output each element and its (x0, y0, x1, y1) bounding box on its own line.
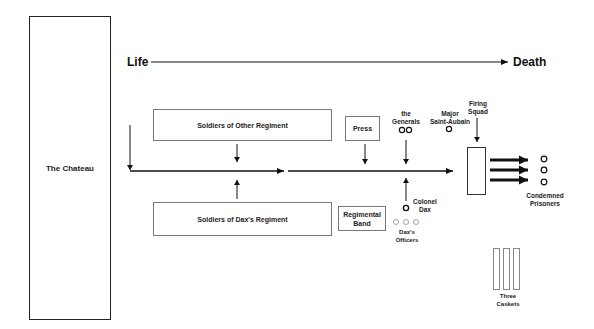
press-box: Press (345, 116, 380, 141)
colonel-dax-label: Colonel Dax (410, 198, 440, 214)
regimental-band-label: Regimental (343, 210, 381, 219)
firing-squad-box (467, 147, 486, 195)
firing-squad-label-line: Squad (463, 108, 493, 116)
generals-label: the Generals (390, 110, 422, 126)
casket (513, 248, 520, 290)
officers-label-line: Officers (392, 236, 422, 244)
officers-label-line: Dax's (392, 228, 422, 236)
firing-squad-label-line: Firing (463, 100, 493, 108)
prisoners-label-line: Condemned (525, 192, 565, 200)
officer-circle-icon (394, 220, 399, 225)
colonel-label-line: Dax (410, 206, 440, 214)
colonel-label-line: Colonel (410, 198, 440, 206)
prisoner-circle-icon (541, 156, 547, 162)
firing-squad-label: Firing Squad (463, 100, 493, 116)
caskets-label-line: Caskets (494, 300, 522, 308)
life-label: Life (127, 55, 148, 69)
press-label: Press (353, 124, 372, 133)
caskets-label-line: Three (494, 292, 522, 300)
death-label: Death (513, 55, 546, 69)
major-label-line: Saint-Aubain (430, 118, 470, 126)
officer-circle-icon (414, 220, 419, 225)
three-caskets-label: Three Caskets (494, 292, 522, 308)
casket (503, 248, 510, 290)
general-circle-icon (406, 127, 411, 132)
other-regiment-box: Soldiers of Other Regiment (153, 109, 332, 141)
dax-officers-label: Dax's Officers (392, 228, 422, 244)
regimental-band-box: Regimental Band (338, 206, 386, 231)
chateau-label: The Chateau (46, 164, 94, 173)
other-regiment-label: Soldiers of Other Regiment (197, 121, 288, 130)
chateau-box: The Chateau (29, 16, 111, 320)
dax-regiment-box: Soldiers of Dax's Regiment (153, 202, 332, 236)
dax-regiment-label: Soldiers of Dax's Regiment (197, 215, 287, 224)
prisoners-label-line: Prisoners (525, 200, 565, 208)
regimental-band-label: Band (353, 219, 371, 228)
major-circle-icon (446, 126, 451, 131)
officer-circle-icon (404, 220, 409, 225)
general-circle-icon (399, 127, 404, 132)
casket (493, 248, 500, 290)
generals-label-line: the (390, 110, 422, 118)
prisoner-circle-icon (541, 167, 547, 173)
condemned-prisoners-label: Condemned Prisoners (525, 192, 565, 208)
colonel-circle-icon (403, 205, 408, 210)
prisoner-circle-icon (541, 179, 547, 185)
generals-label-line: Generals (390, 118, 422, 126)
